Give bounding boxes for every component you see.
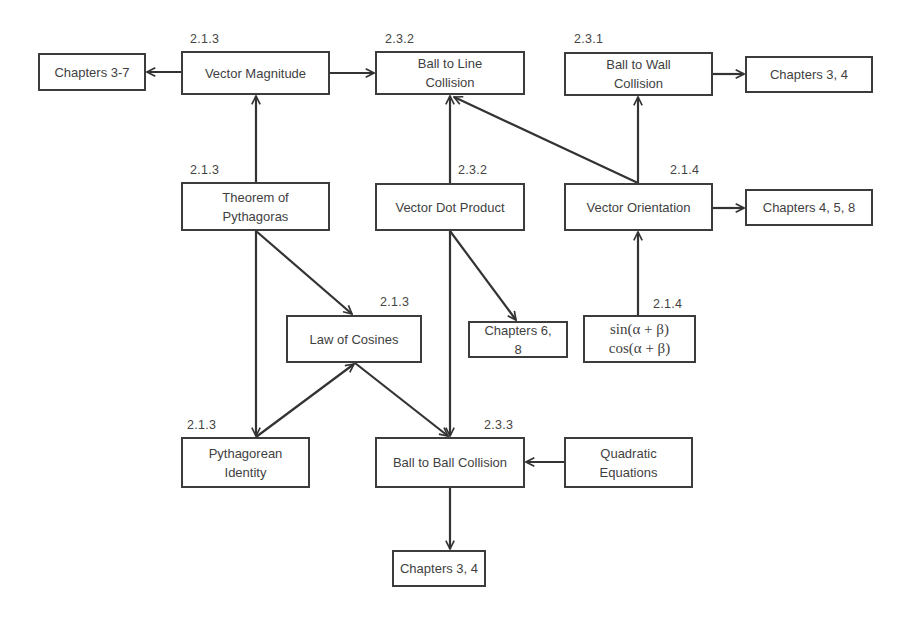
node-pythagorean-identity: Pythagorean Identity — [181, 437, 310, 488]
node-vector-magnitude: Vector Magnitude — [181, 51, 330, 95]
node-label: Ball to Ball Collision — [393, 453, 507, 472]
node-ball-to-line-collision: Ball to Line Collision — [375, 51, 525, 95]
arrow-theorem-of-pythagoras-to-law-of-cosines — [256, 231, 352, 314]
concept-dependency-diagram: Chapters 3-7Vector MagnitudeBall to Line… — [0, 0, 907, 622]
node-ball-to-wall-collision: Ball to Wall Collision — [564, 52, 713, 96]
arrow-pythagorean-identity-to-law-of-cosines — [256, 364, 354, 437]
node-chapters-3-7: Chapters 3-7 — [38, 53, 146, 91]
node-label: Chapters 6, 8 — [484, 321, 551, 359]
section-number-ball-to-line-collision: 2.3.2 — [385, 32, 414, 46]
node-label: Vector Magnitude — [205, 64, 306, 83]
node-vector-dot-product: Vector Dot Product — [375, 183, 525, 231]
node-ball-to-ball-collision: Ball to Ball Collision — [375, 437, 525, 488]
node-label: Chapters 4, 5, 8 — [763, 198, 856, 217]
arrow-law-of-cosines-to-ball-to-ball-collision — [355, 363, 448, 436]
node-chapters-3-4-top: Chapters 3, 4 — [745, 56, 873, 93]
node-label: Chapters 3, 4 — [400, 559, 478, 578]
node-label: Chapters 3, 4 — [770, 65, 848, 84]
node-label: Vector Orientation — [586, 198, 690, 217]
node-chapters-6-8: Chapters 6, 8 — [468, 321, 568, 358]
section-number-ball-to-ball-collision: 2.3.3 — [484, 418, 513, 432]
section-number-law-of-cosines: 2.1.3 — [380, 295, 409, 309]
section-number-sum-angle-identities: 2.1.4 — [653, 297, 682, 311]
section-number-pythagorean-identity: 2.1.3 — [187, 418, 216, 432]
section-number-vector-orientation: 2.1.4 — [670, 163, 699, 177]
node-label: Vector Dot Product — [395, 198, 504, 217]
node-chapters-3-4-bottom: Chapters 3, 4 — [392, 550, 486, 587]
node-label: sin(α + β) cos(α + β) — [609, 320, 670, 358]
node-law-of-cosines: Law of Cosines — [286, 315, 422, 363]
section-number-vector-dot-product: 2.3.2 — [458, 163, 487, 177]
arrow-vector-dot-product-to-chapters-6-8 — [450, 231, 516, 320]
node-chapters-4-5-8: Chapters 4, 5, 8 — [745, 189, 873, 226]
node-sum-angle-identities: sin(α + β) cos(α + β) — [583, 315, 696, 363]
node-label: Theorem of Pythagoras — [222, 188, 288, 226]
node-label: Law of Cosines — [310, 330, 399, 349]
node-label: Ball to Line Collision — [418, 54, 482, 92]
node-label: Ball to Wall Collision — [606, 55, 671, 93]
node-theorem-of-pythagoras: Theorem of Pythagoras — [181, 182, 330, 231]
node-label: Chapters 3-7 — [54, 63, 129, 82]
section-number-theorem-of-pythagoras: 2.1.3 — [190, 163, 219, 177]
section-number-ball-to-wall-collision: 2.3.1 — [574, 32, 603, 46]
node-vector-orientation: Vector Orientation — [564, 183, 713, 231]
node-quadratic-equations: Quadratic Equations — [564, 437, 693, 488]
node-label: Pythagorean Identity — [209, 444, 283, 482]
node-label: Quadratic Equations — [600, 444, 658, 482]
section-number-vector-magnitude: 2.1.3 — [190, 32, 219, 46]
